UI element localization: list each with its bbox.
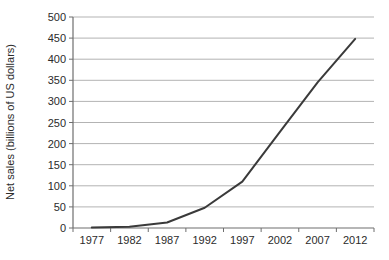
axis-ticks [69, 17, 374, 232]
x-tick-label: 1982 [117, 234, 141, 246]
x-tick-label: 1977 [80, 234, 104, 246]
gridlines [73, 17, 374, 207]
y-tick-label: 400 [48, 53, 66, 65]
x-tick-labels: 19771982198719921997200220072012 [80, 234, 368, 246]
y-tick-label: 200 [48, 138, 66, 150]
chart-canvas: 050100150200250300350400450500 197719821… [0, 0, 389, 260]
x-tick-label: 1992 [192, 234, 216, 246]
y-tick-label: 450 [48, 32, 66, 44]
y-tick-labels: 050100150200250300350400450500 [48, 11, 66, 234]
y-tick-label: 0 [60, 222, 66, 234]
y-tick-label: 500 [48, 11, 66, 23]
x-tick-label: 1997 [230, 234, 254, 246]
x-tick-label: 2002 [268, 234, 292, 246]
y-tick-label: 100 [48, 180, 66, 192]
y-tick-label: 150 [48, 159, 66, 171]
y-tick-label: 350 [48, 74, 66, 86]
y-tick-label: 300 [48, 95, 66, 107]
y-axis-title: Net sales (billions of US dollars) [4, 44, 16, 200]
x-tick-label: 2007 [305, 234, 329, 246]
net-sales-line-chart: 050100150200250300350400450500 197719821… [0, 0, 389, 260]
x-tick-label: 1987 [155, 234, 179, 246]
net-sales-line [92, 39, 355, 228]
x-tick-label: 2012 [343, 234, 367, 246]
y-tick-label: 250 [48, 117, 66, 129]
y-tick-label: 50 [54, 201, 66, 213]
